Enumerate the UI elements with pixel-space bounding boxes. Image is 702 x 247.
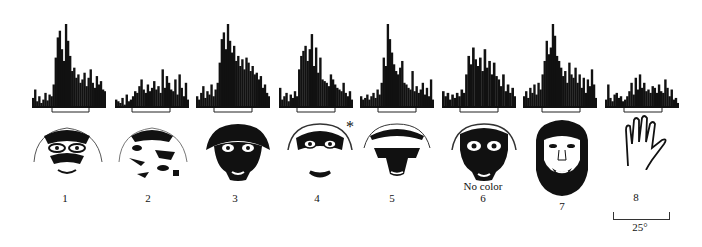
panel-label-2: 2 [145, 192, 151, 204]
panel-label-4: 4 [314, 192, 320, 204]
scale-bar [613, 212, 670, 220]
histogram-4 [279, 12, 353, 116]
panel-label-8: 8 [633, 191, 639, 203]
histogram-8 [605, 12, 679, 116]
scale-bar-label: 25° [632, 221, 647, 233]
panel-label-6: 6 [480, 192, 486, 204]
panel-label-7: 7 [559, 200, 565, 212]
stimulus-1-monkey-face [30, 122, 104, 184]
histogram-2 [115, 12, 189, 116]
panel-label-3: 3 [232, 192, 238, 204]
histogram-7 [523, 12, 597, 116]
stimulus-6-face-no-color [448, 120, 520, 186]
stimulus-7-human-face [532, 116, 592, 202]
panel-label-1: 1 [62, 192, 68, 204]
histogram-1 [32, 12, 106, 116]
stimulus-3-high-contrast-face [202, 120, 274, 186]
histogram-6 [442, 12, 516, 116]
stimulus-2-scrambled-face [115, 122, 189, 184]
stimulus-5-face-no-eyes [360, 120, 434, 186]
asterisk-marker: * [346, 118, 354, 136]
panel-sublabel-6: No color [464, 180, 503, 192]
histogram-3 [196, 12, 270, 116]
stimulus-8-hand [620, 114, 672, 174]
panel-label-5: 5 [389, 192, 395, 204]
histogram-5 [360, 12, 434, 116]
